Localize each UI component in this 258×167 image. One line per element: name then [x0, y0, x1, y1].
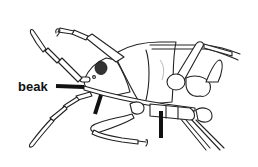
- beak-pointer: [56, 86, 84, 87]
- pointer-layer: [0, 0, 258, 167]
- beak-mid-pointer: [95, 95, 101, 114]
